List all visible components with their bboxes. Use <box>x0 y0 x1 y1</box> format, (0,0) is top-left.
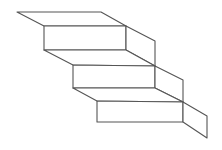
staircase-drawing <box>0 0 222 150</box>
step-1-tread <box>17 12 126 26</box>
step-3-riser <box>97 101 183 122</box>
step-3-side <box>183 102 207 138</box>
step-3 <box>73 88 207 138</box>
step-2-riser <box>73 65 155 88</box>
staircase-diagram <box>0 0 222 150</box>
step-1-riser <box>44 26 126 50</box>
